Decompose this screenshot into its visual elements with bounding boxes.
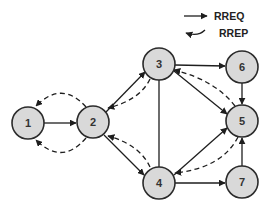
node-1-label: 1	[25, 117, 31, 129]
node-3: 3	[143, 48, 175, 80]
node-2: 2	[77, 106, 109, 138]
rreq-edges	[44, 65, 242, 183]
rreq-edge-2-3	[106, 72, 145, 112]
node-6-label: 6	[239, 61, 245, 73]
legend-rreq-label: RREQ	[214, 10, 244, 22]
node-6: 6	[226, 51, 258, 83]
node-5-label: 5	[239, 115, 245, 127]
legend-rrep: RREP	[186, 27, 248, 39]
node-1: 1	[12, 107, 44, 139]
rrep-edge-2-1-lower	[36, 138, 86, 153]
rrep-edge-2-1-upper	[36, 93, 86, 107]
rrep-edges	[36, 70, 238, 173]
node-5: 5	[226, 105, 258, 137]
rreq-edge-4-5	[174, 128, 227, 175]
rreq-edge-3-6	[175, 65, 225, 66]
rrep-edge-5-3	[174, 70, 235, 106]
legend: RREQ RREP	[184, 10, 248, 39]
curved-arrow-icon	[186, 30, 205, 34]
node-7: 7	[226, 166, 258, 198]
node-7-label: 7	[239, 176, 245, 188]
node-4-label: 4	[156, 177, 163, 189]
node-2-label: 2	[90, 116, 96, 128]
rreq-edge-3-5	[174, 71, 227, 114]
legend-rreq: RREQ	[184, 10, 244, 22]
network-routing-diagram: RREQ RREP 1 2 3	[0, 0, 273, 211]
rrep-edge-5-4	[175, 137, 238, 173]
rreq-edge-2-4	[104, 135, 144, 175]
legend-rrep-label: RREP	[219, 27, 248, 39]
node-4: 4	[143, 167, 175, 199]
rrep-edge-4-2	[108, 136, 150, 167]
node-3-label: 3	[156, 58, 162, 70]
